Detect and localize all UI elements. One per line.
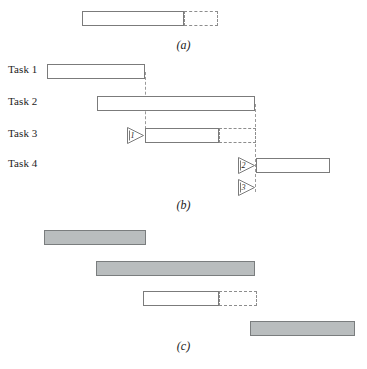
bar-c-3-actual[interactable] [143,291,219,306]
bar-c-3-float[interactable] [219,291,257,306]
caption-c: (c) [0,339,367,354]
panel-c: (c) [0,0,367,369]
bar-c-2[interactable] [96,261,255,276]
figure-canvas: (a)Task 1Task 2Task 3Task 4123(b)(c) [0,0,367,369]
bar-c-4[interactable] [250,321,355,336]
bar-c-1[interactable] [44,230,146,245]
